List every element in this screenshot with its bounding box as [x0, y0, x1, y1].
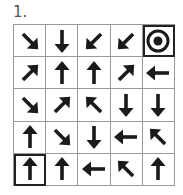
grid-cell[interactable] [78, 25, 110, 57]
arrow-left-icon [113, 124, 139, 150]
grid-cell[interactable] [143, 122, 175, 154]
grid-cell[interactable] [143, 154, 175, 186]
arrow-up-left-icon [81, 92, 107, 118]
grid-cell[interactable] [111, 25, 143, 57]
arrow-up-icon [49, 60, 75, 86]
arrow-left-icon [145, 60, 171, 86]
grid-cell[interactable] [143, 57, 175, 89]
grid-cell[interactable] [46, 122, 78, 154]
grid-cell[interactable] [14, 25, 46, 57]
grid-cell[interactable] [46, 154, 78, 186]
arrow-down-right-icon [49, 124, 75, 150]
grid-cell[interactable] [78, 154, 110, 186]
arrow-up-icon [49, 156, 75, 182]
grid-cell[interactable] [111, 122, 143, 154]
arrow-grid [13, 24, 175, 186]
arrow-down-right-icon [17, 92, 43, 118]
arrow-down-right-icon [17, 28, 43, 54]
arrow-up-icon [17, 156, 43, 182]
grid-cell[interactable] [46, 57, 78, 89]
grid-cell[interactable] [78, 57, 110, 89]
grid-cell[interactable] [14, 154, 46, 186]
arrow-up-icon [145, 156, 171, 182]
grid-cell[interactable] [78, 122, 110, 154]
arrow-down-left-icon [113, 28, 139, 54]
arrow-up-right-icon [17, 60, 43, 86]
grid-cell[interactable] [14, 57, 46, 89]
grid-cell[interactable] [111, 57, 143, 89]
target-icon [145, 28, 171, 54]
arrow-up-icon [81, 60, 107, 86]
grid-cell[interactable] [111, 89, 143, 121]
arrow-up-left-icon [113, 156, 139, 182]
grid-cell[interactable] [78, 89, 110, 121]
grid-cell[interactable] [14, 89, 46, 121]
arrow-up-right-icon [49, 92, 75, 118]
arrow-down-left-icon [81, 28, 107, 54]
arrow-up-left-icon [145, 124, 171, 150]
grid-cell[interactable] [46, 89, 78, 121]
grid-cell[interactable] [143, 89, 175, 121]
arrow-down-icon [145, 92, 171, 118]
arrow-up-icon [17, 124, 43, 150]
arrow-down-icon [81, 124, 107, 150]
grid-cell[interactable] [111, 154, 143, 186]
arrow-up-right-icon [113, 60, 139, 86]
grid-cell[interactable] [14, 122, 46, 154]
arrow-down-icon [49, 28, 75, 54]
grid-cell[interactable] [143, 25, 175, 57]
grid-cell[interactable] [46, 25, 78, 57]
puzzle-number-label: 1. [13, 3, 27, 21]
arrow-down-icon [113, 92, 139, 118]
arrow-left-icon [81, 156, 107, 182]
